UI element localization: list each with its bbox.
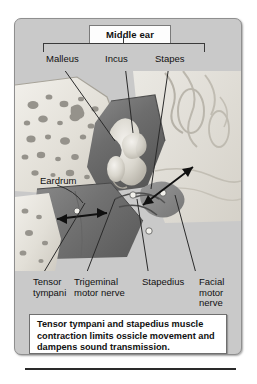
footer-rule (25, 368, 236, 370)
label-eardrum: Eardrum (40, 176, 76, 187)
label-trigeminal-motor-nerve: Trigeminal motor nerve (74, 277, 136, 298)
figure-caption: Tensor tympani and stapedius muscle cont… (29, 314, 227, 354)
figure-title: Middle ear (106, 29, 154, 40)
ossicle-bracket (43, 43, 205, 52)
label-malleus: Malleus (46, 54, 79, 65)
label-stapes: Stapes (155, 54, 185, 65)
label-stapedius: Stapedius (142, 277, 194, 288)
middle-ear-illustration (15, 71, 241, 271)
figure-title-box: Middle ear (89, 25, 171, 44)
label-incus: Incus (105, 54, 128, 65)
middle-ear-figure: Middle ear Malleus Incus Stapes Eardrum … (0, 0, 257, 384)
label-facial-motor-nerve: Facial motor nerve (199, 277, 239, 309)
figure-panel: Middle ear Malleus Incus Stapes Eardrum … (14, 18, 242, 355)
